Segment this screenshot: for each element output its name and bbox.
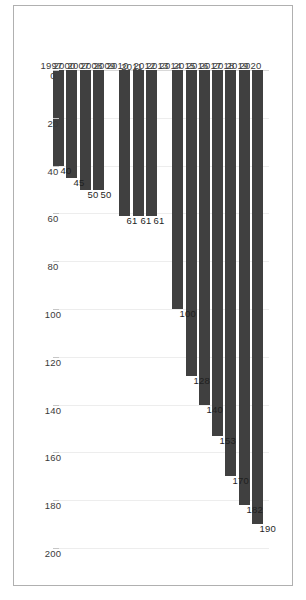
value-axis-tick-label: 80 bbox=[48, 261, 59, 272]
value-axis-tick-label: 100 bbox=[45, 309, 61, 320]
bar-row[interactable]: 2018170 bbox=[229, 70, 242, 548]
bar-value-label: 190 bbox=[260, 523, 276, 534]
value-axis-tick-label: 0 bbox=[50, 70, 55, 81]
bar-row[interactable]: 200850 bbox=[97, 70, 110, 548]
bar-value-label: 140 bbox=[207, 403, 223, 414]
bar-value-label: 50 bbox=[101, 188, 112, 199]
value-axis-tick-label: 40 bbox=[48, 166, 59, 177]
bar-value-label: 128 bbox=[193, 374, 209, 385]
bar-row[interactable]: 2013 bbox=[163, 70, 176, 548]
bar-value-label: 61 bbox=[140, 214, 151, 225]
bar-row[interactable]: 2014100 bbox=[176, 70, 189, 548]
value-axis-tick-label: 120 bbox=[45, 357, 61, 368]
bar-row[interactable]: 2017153 bbox=[216, 70, 229, 548]
bar-row[interactable]: 200750 bbox=[84, 70, 97, 548]
bar-value-label: 170 bbox=[233, 475, 249, 486]
bar-value-label: 100 bbox=[180, 308, 196, 319]
bar-value-label: 61 bbox=[154, 214, 165, 225]
bar-row[interactable]: 2020190 bbox=[256, 70, 269, 548]
chart-page: 2020190201918220181702017153201614020151… bbox=[0, 0, 306, 600]
bar-row[interactable]: 2009 bbox=[110, 70, 123, 548]
value-axis-tick-label: 200 bbox=[45, 548, 61, 559]
chart-frame: 2020190201918220181702017153201614020151… bbox=[13, 5, 293, 586]
bar-row[interactable]: 2016140 bbox=[203, 70, 216, 548]
value-axis-tick-label: 20 bbox=[48, 118, 59, 129]
chart-stage: 2020190201918220181702017153201614020151… bbox=[23, 18, 285, 574]
plot-area: 2020190201918220181702017153201614020151… bbox=[57, 70, 269, 548]
bar-value-label: 61 bbox=[127, 214, 138, 225]
bar-value-label: 182 bbox=[246, 503, 262, 514]
bar-value-label: 50 bbox=[87, 188, 98, 199]
gridline bbox=[57, 548, 269, 549]
bar-value-label: 153 bbox=[220, 434, 236, 445]
bar-row[interactable]: 201161 bbox=[137, 70, 150, 548]
value-axis: 020406080100120140160180200 bbox=[31, 70, 53, 548]
bar-row[interactable]: 201061 bbox=[123, 70, 136, 548]
value-axis-tick-label: 180 bbox=[45, 500, 61, 511]
bar-value-label: 45 bbox=[74, 176, 85, 187]
value-axis-tick-label: 60 bbox=[48, 213, 59, 224]
bar-row[interactable]: 200045 bbox=[70, 70, 83, 548]
bar-row[interactable]: 201261 bbox=[150, 70, 163, 548]
bar-value-label: 40 bbox=[61, 164, 72, 175]
value-axis-tick-label: 140 bbox=[45, 405, 61, 416]
value-axis-tick-label: 160 bbox=[45, 452, 61, 463]
